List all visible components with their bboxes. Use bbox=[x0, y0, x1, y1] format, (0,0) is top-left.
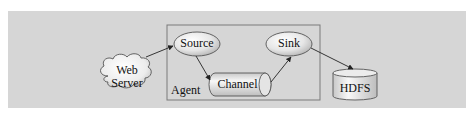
web-server-label-line2: Server bbox=[107, 77, 147, 90]
web-server-label: Web Server bbox=[107, 64, 147, 90]
channel-label: Channel bbox=[210, 78, 265, 91]
edge-sink-to-hdfs bbox=[311, 48, 353, 69]
edge-webserver-to-source bbox=[146, 46, 173, 57]
agent-label: Agent bbox=[171, 84, 200, 97]
hdfs-label: HDFS bbox=[333, 82, 377, 95]
edge-source-to-channel bbox=[196, 56, 210, 80]
diagram-canvas bbox=[0, 0, 473, 119]
edge-channel-to-sink bbox=[271, 57, 291, 82]
sink-label: Sink bbox=[266, 37, 312, 50]
source-label: Source bbox=[174, 37, 220, 50]
